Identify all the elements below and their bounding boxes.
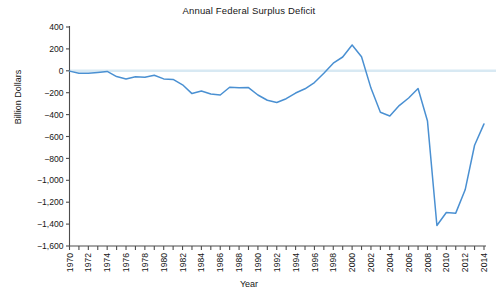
y-tick-label: −1,600 <box>37 241 64 251</box>
x-tick-label: 2000 <box>347 253 357 272</box>
y-axis: 4002000−200−400−600−800−1,000−1,200−1,40… <box>37 22 70 251</box>
x-tick-label: 1990 <box>253 253 263 272</box>
x-tick-label: 1992 <box>272 253 282 272</box>
y-tick-label: −200 <box>44 88 64 98</box>
x-tick-label: 1982 <box>178 253 188 272</box>
x-tick-label: 1974 <box>102 253 112 272</box>
x-tick-label: 1996 <box>310 253 320 272</box>
y-tick-label: 400 <box>49 22 64 32</box>
x-tick-label: 1984 <box>196 253 206 272</box>
x-axis: 1970197219741976197819801982198419861988… <box>65 246 490 272</box>
x-tick-label: 2010 <box>441 253 451 272</box>
y-tick-label: −400 <box>44 110 64 120</box>
x-tick-label: 1970 <box>65 253 75 272</box>
y-tick-label: −600 <box>44 132 64 142</box>
x-tick-label: 1986 <box>215 253 225 272</box>
x-tick-label: 2006 <box>404 253 414 272</box>
plot-area: 4002000−200−400−600−800−1,000−1,200−1,40… <box>0 0 498 299</box>
x-tick-label: 2014 <box>479 253 489 272</box>
x-tick-label: 1994 <box>291 253 301 272</box>
x-tick-label: 2002 <box>366 253 376 272</box>
chart-figure: Annual Federal Surplus Deficit Billion D… <box>0 0 498 299</box>
x-tick-label: 1976 <box>121 253 131 272</box>
y-tick-label: 0 <box>59 66 64 76</box>
data-series-line <box>70 45 485 226</box>
x-tick-label: 2008 <box>423 253 433 272</box>
y-tick-label: 200 <box>49 44 64 54</box>
y-tick-label: −1,000 <box>37 175 64 185</box>
x-tick-label: 2012 <box>460 253 470 272</box>
y-tick-label: −800 <box>44 154 64 164</box>
x-tick-label: 1988 <box>234 253 244 272</box>
x-tick-label: 1998 <box>328 253 338 272</box>
y-tick-label: −1,200 <box>37 197 64 207</box>
x-tick-label: 2004 <box>385 253 395 272</box>
x-tick-label: 1972 <box>83 253 93 272</box>
x-tick-label: 1980 <box>159 253 169 272</box>
y-tick-label: −1,400 <box>37 219 64 229</box>
x-tick-label: 1978 <box>140 253 150 272</box>
